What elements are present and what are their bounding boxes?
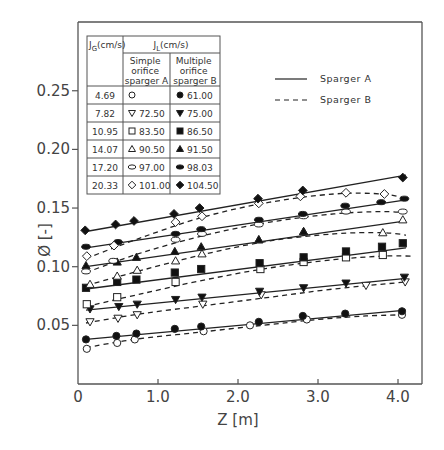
filled-square-marker bbox=[342, 248, 349, 255]
table-cell-sparger-b: 91.50 bbox=[187, 145, 213, 155]
filled-circle-marker bbox=[398, 308, 405, 315]
open-triangle-marker bbox=[399, 216, 407, 223]
open-square-marker bbox=[379, 251, 386, 258]
open-ellipse-marker bbox=[128, 165, 136, 169]
open-ellipse-marker bbox=[398, 209, 407, 214]
filled-square-marker bbox=[171, 269, 178, 276]
filled-ellipse-marker bbox=[82, 244, 91, 249]
filled-circle-marker bbox=[113, 332, 120, 339]
table-cell-sparger-a: 90.50 bbox=[139, 145, 165, 155]
filled-diamond-marker bbox=[111, 220, 120, 229]
y-tick-label: 0.20 bbox=[37, 140, 70, 158]
filled-triangle-marker bbox=[197, 243, 205, 250]
open-ellipse-marker bbox=[342, 209, 351, 214]
filled-circle-marker bbox=[255, 318, 262, 325]
open-circle-marker bbox=[246, 322, 253, 329]
filled-ellipse-marker bbox=[377, 200, 386, 205]
filled-diamond-marker bbox=[81, 226, 90, 235]
table-cell-jg: 10.95 bbox=[92, 127, 118, 137]
filled-circle-marker bbox=[299, 312, 306, 319]
table-cell-sparger-b: 86.50 bbox=[187, 127, 213, 137]
table-cell-jg: 14.07 bbox=[92, 145, 118, 155]
open-circle-marker bbox=[83, 345, 90, 352]
filled-ellipse-marker bbox=[298, 211, 307, 216]
filled-circle-marker bbox=[342, 310, 349, 317]
filled-ellipse-marker bbox=[171, 231, 180, 236]
filled-ellipse-marker bbox=[197, 227, 206, 232]
filled-triangle-marker bbox=[171, 247, 179, 254]
table-cell-jg: 20.33 bbox=[92, 181, 118, 191]
open-triangle-marker bbox=[113, 272, 121, 279]
filled-ellipse-marker bbox=[400, 196, 409, 201]
open-square-marker bbox=[83, 301, 90, 308]
open-diamond-marker bbox=[171, 218, 180, 227]
filled-ellipse-marker bbox=[176, 165, 184, 169]
y-tick-label: 0.10 bbox=[37, 258, 70, 276]
table-cell-sparger-a: 101.00 bbox=[139, 181, 171, 191]
y-tick-label: 0.15 bbox=[37, 199, 70, 217]
filled-square-marker bbox=[399, 240, 406, 247]
filled-ellipse-marker bbox=[341, 203, 350, 208]
table-cell-sparger-a: 72.50 bbox=[139, 109, 165, 119]
filled-square-marker bbox=[133, 276, 140, 283]
open-circle-marker bbox=[114, 339, 121, 346]
filled-square-marker bbox=[177, 128, 183, 134]
x-ticks: 01.02.03.04.0 bbox=[73, 379, 410, 406]
open-diamond-marker bbox=[198, 212, 207, 221]
x-tick-label: 1.0 bbox=[146, 388, 170, 406]
filled-square-marker bbox=[300, 254, 307, 261]
filled-circle-marker bbox=[133, 330, 140, 337]
table-cell-sparger-b: 104.50 bbox=[187, 181, 219, 191]
open-inv-triangle-marker bbox=[199, 301, 207, 308]
legend-label-sparger-b: Sparger B bbox=[320, 94, 371, 105]
table-cell-sparger-a: 83.50 bbox=[139, 127, 165, 137]
filled-inv-triangle-marker bbox=[172, 296, 180, 303]
open-ellipse-marker bbox=[109, 258, 118, 263]
filled-circle-marker bbox=[82, 336, 89, 343]
table-cell-jg: 4.69 bbox=[95, 91, 115, 101]
data-markers bbox=[81, 173, 410, 352]
x-axis-title: Z [m] bbox=[217, 411, 258, 429]
filled-square-marker bbox=[198, 265, 205, 272]
filled-circle-marker bbox=[198, 323, 205, 330]
filled-triangle-marker bbox=[82, 261, 90, 268]
table-header-col-b: Multiple orifice sparger B bbox=[173, 56, 216, 86]
legend-table: JG(cm/s) JL(cm/s) Simple orifice sparger… bbox=[87, 36, 220, 194]
open-square-marker bbox=[114, 294, 121, 301]
open-diamond-marker bbox=[380, 190, 389, 199]
open-inv-triangle-marker bbox=[114, 315, 122, 322]
open-diamond-marker bbox=[82, 252, 91, 261]
x-tick-label: 2.0 bbox=[226, 388, 250, 406]
open-ellipse-marker bbox=[82, 269, 91, 274]
open-square-marker bbox=[129, 128, 135, 134]
table-cell-jg: 17.20 bbox=[92, 163, 118, 173]
open-triangle-marker bbox=[172, 257, 180, 264]
filled-square-marker bbox=[378, 243, 385, 250]
filled-ellipse-marker bbox=[254, 217, 263, 222]
open-ellipse-marker bbox=[171, 237, 180, 242]
table-cell-jg: 7.82 bbox=[95, 109, 115, 119]
table-cell-sparger-a: 97.00 bbox=[139, 163, 165, 173]
y-tick-label: 0.05 bbox=[37, 316, 70, 334]
table-cell-sparger-b: 75.00 bbox=[187, 109, 213, 119]
filled-square-marker bbox=[256, 260, 263, 267]
filled-circle-marker bbox=[171, 325, 178, 332]
chart: 01.02.03.04.0 0.050.100.150.200.25 Z [m]… bbox=[0, 0, 444, 450]
table-cell-sparger-b: 98.03 bbox=[187, 163, 213, 173]
y-ticks: 0.050.100.150.200.25 bbox=[37, 82, 78, 335]
open-diamond-marker bbox=[342, 188, 351, 197]
filled-diamond-marker bbox=[398, 173, 407, 182]
x-tick-label: 4.0 bbox=[386, 388, 410, 406]
x-tick-label: 3.0 bbox=[306, 388, 330, 406]
filled-triangle-marker bbox=[255, 236, 263, 243]
y-tick-label: 0.25 bbox=[37, 82, 70, 100]
open-circle-marker bbox=[129, 92, 135, 98]
legend-label-sparger-a: Sparger A bbox=[320, 73, 371, 84]
open-triangle-marker bbox=[133, 266, 141, 273]
open-square-marker bbox=[172, 278, 179, 285]
legend: Sparger A Sparger B bbox=[275, 73, 371, 105]
x-tick-label: 0 bbox=[73, 388, 83, 406]
filled-triangle-marker bbox=[132, 253, 140, 260]
y-axis-title: Ø [-] bbox=[36, 223, 54, 257]
filled-circle-marker bbox=[177, 92, 183, 98]
